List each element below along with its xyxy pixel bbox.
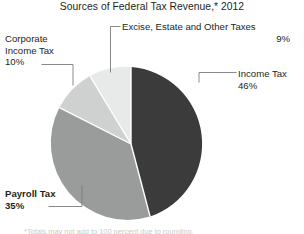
pie-chart-figure: Sources of Federal Tax Revenue,* 2012 Co… xyxy=(0,0,304,234)
callout-corporate-income-tax: Corporate Income Tax 10% xyxy=(5,33,54,68)
callout-payroll-line1: Payroll Tax xyxy=(5,188,55,199)
leader-line-excise xyxy=(111,27,121,73)
pie-slices xyxy=(51,67,202,220)
chart-footnote: *Totals may not add to 100 percent due t… xyxy=(24,227,296,234)
callout-corporate-line1: Corporate xyxy=(5,33,48,44)
callout-excise-estate-other: Excise, Estate and Other Taxes 9% xyxy=(122,21,298,44)
callout-corporate-percent: 10% xyxy=(5,56,54,68)
callout-excise-line1: Excise, Estate and Other Taxes xyxy=(122,21,256,32)
callout-payroll-tax: Payroll Tax 35% xyxy=(5,188,55,211)
callout-income-percent: 46% xyxy=(238,80,287,92)
leader-line-income xyxy=(199,73,236,83)
callout-income-tax: Income Tax 46% xyxy=(238,68,287,91)
callout-income-line1: Income Tax xyxy=(238,68,287,79)
callout-payroll-percent: 35% xyxy=(5,200,55,212)
callout-excise-percent: 9% xyxy=(122,33,298,45)
callout-corporate-line2: Income Tax xyxy=(5,45,54,56)
